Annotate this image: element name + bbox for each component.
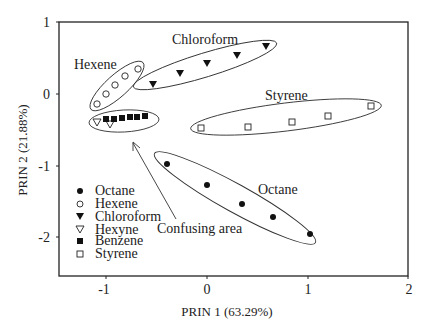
legend: Octane Hexene Chloroform Hexyne Benzene …	[76, 183, 161, 261]
annotation-confusing-area: Confusing area	[157, 221, 243, 236]
legend-hexyne-icon	[76, 226, 84, 233]
x-tick-label: 2	[406, 282, 413, 297]
x-axis-label: PRIN 1 (63.29%)	[181, 304, 272, 319]
legend-label: Styrene	[95, 246, 138, 261]
x-tick-label: 1	[305, 282, 312, 297]
y-tick-label: 1	[43, 15, 50, 30]
pca-scatter-chart: 1 0 -1 -2 PRIN 2 (21.88%) -1 0 1 2 PRIN …	[0, 0, 429, 332]
y-tick-label: 0	[43, 87, 50, 102]
y-tick-label: -2	[38, 230, 50, 245]
x-tick-label: -1	[98, 282, 110, 297]
annotation-octane: Octane	[258, 182, 298, 197]
legend-benzene-icon	[77, 238, 83, 244]
octane-ellipse	[148, 141, 323, 255]
y-axis-label: PRIN 2 (21.88%)	[15, 104, 30, 195]
x-axis: -1 0 1 2 PRIN 1 (63.29%)	[98, 276, 412, 319]
y-tick-label: -1	[38, 159, 50, 174]
y-axis: 1 0 -1 -2 PRIN 2 (21.88%)	[15, 15, 59, 245]
legend-hexene-icon	[77, 201, 83, 207]
legend-octane-icon	[77, 188, 83, 194]
annotation-styrene: Styrene	[265, 88, 308, 103]
x-tick-label: 0	[204, 282, 211, 297]
annotation-chloroform: Chloroform	[172, 32, 238, 47]
series-styrene	[198, 103, 374, 131]
legend-chloroform-icon	[76, 213, 84, 220]
annotation-hexene: Hexene	[74, 57, 117, 72]
legend-styrene-icon	[77, 251, 83, 257]
